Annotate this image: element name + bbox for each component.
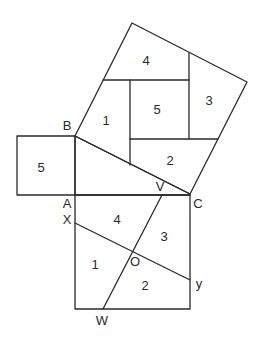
pythagorean-dissection-diagram: 4 1 5 3 2 5 4 3 1 2 B A X C V O y W (0, 0, 256, 344)
small-square (17, 136, 75, 195)
piece-label-hyp-5: 5 (153, 102, 160, 117)
piece-label-hyp-4: 4 (142, 53, 149, 68)
point-label-c: C (193, 196, 202, 211)
hypotenuse-square (75, 23, 247, 194)
piece-label-hyp-1: 1 (102, 113, 109, 128)
piece-label-large-2: 2 (141, 278, 148, 293)
point-label-o: O (130, 254, 140, 269)
point-label-a: A (63, 196, 72, 211)
piece-label-hyp-2: 2 (166, 153, 173, 168)
point-label-x: X (63, 212, 72, 227)
piece-label-hyp-3: 3 (205, 93, 212, 108)
piece-label-large-3: 3 (160, 229, 167, 244)
point-label-w: W (96, 313, 109, 328)
piece-label-small-5: 5 (37, 160, 44, 175)
point-label-v: V (156, 179, 165, 194)
piece-label-large-1: 1 (91, 257, 98, 272)
piece-label-large-4: 4 (113, 212, 120, 227)
line-vw (103, 195, 162, 309)
point-label-b: B (63, 118, 72, 133)
point-label-y: y (196, 276, 203, 291)
